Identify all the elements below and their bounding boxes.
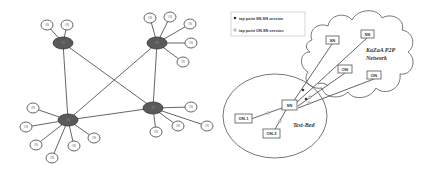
tap-point-sn-sn — [305, 98, 308, 101]
svg-text:ON: ON — [50, 156, 54, 160]
svg-text:ON: ON — [31, 106, 35, 110]
testbed-sn: SN — [282, 100, 297, 110]
ordinary-node: ON — [144, 13, 156, 23]
svg-text:SN: SN — [330, 38, 336, 43]
ordinary-node: ON — [185, 102, 197, 112]
ordinary-node: ON — [30, 140, 42, 150]
legend-item-on-sn: tap point ON-SN session — [239, 29, 284, 33]
ordinary-node: ON — [27, 103, 39, 113]
ordinary-node: ON — [88, 133, 100, 143]
right-panel-testbed: SN SN ON ON KaZaA P2P Network SN ON-1 ON… — [223, 11, 413, 158]
svg-text:ON: ON — [154, 130, 158, 134]
svg-text:ON: ON — [65, 23, 69, 27]
svg-text:ON: ON — [189, 105, 193, 109]
legend-hollow-dot-icon — [234, 29, 236, 31]
ordinary-node: ON — [201, 121, 213, 131]
sn-link — [68, 108, 153, 120]
supernode-bottom-right: SN — [143, 102, 163, 114]
svg-text:ON: ON — [181, 60, 185, 64]
svg-text:ON: ON — [148, 16, 152, 20]
svg-text:ON-2: ON-2 — [266, 131, 277, 136]
svg-text:ON: ON — [342, 67, 348, 72]
svg-text:ON: ON — [189, 41, 193, 45]
legend-item-sn-sn: tap point SN-SN session — [239, 17, 284, 21]
ordinary-node: ON — [41, 20, 53, 30]
sn-link — [153, 43, 157, 108]
supernode-top-left: SN — [53, 37, 73, 49]
svg-text:SN: SN — [365, 32, 371, 37]
figure-canvas: ON ON ON ON ON ON ON ON ON ON ON ON ON O… — [0, 0, 432, 173]
svg-text:SN: SN — [151, 106, 155, 110]
supernode-bottom-left: SN — [58, 114, 78, 126]
kazaa-cloud — [301, 11, 413, 98]
legend: tap point SN-SN session tap point ON-SN … — [231, 12, 305, 36]
tap-point-on-sn — [308, 102, 310, 104]
cloud-label-line2: Network — [365, 55, 387, 61]
ordinary-node: ON — [61, 20, 73, 30]
svg-text:ON: ON — [168, 15, 172, 19]
svg-text:SN: SN — [66, 118, 70, 122]
testbed-label: Test-Bed — [293, 122, 315, 128]
svg-text:ON: ON — [34, 143, 38, 147]
svg-text:ON: ON — [45, 23, 49, 27]
testbed-on-2: ON-2 — [263, 129, 280, 138]
svg-text:ON: ON — [371, 73, 377, 78]
ordinary-node: ON — [46, 153, 58, 163]
supernode-top-right: SN — [147, 37, 167, 49]
ordinary-node: ON — [184, 19, 196, 29]
testbed-on-1: ON-1 — [235, 114, 252, 123]
svg-text:ON: ON — [24, 125, 28, 129]
svg-text:ON: ON — [205, 124, 209, 128]
tap-point-sn-sn — [302, 89, 305, 92]
ordinary-node: ON — [150, 127, 162, 137]
left-panel-overlay-network: ON ON ON ON ON ON ON ON ON ON ON ON ON O… — [20, 12, 213, 163]
tap-point-on-sn — [309, 96, 311, 98]
sn-link — [63, 43, 153, 108]
supernodes: SN SN SN SN — [53, 37, 167, 126]
svg-text:ON: ON — [72, 144, 76, 148]
cloud-node: SN — [326, 36, 339, 44]
tap-point-on-sn — [279, 120, 281, 122]
legend-filled-dot-icon — [234, 17, 237, 20]
ordinary-node: ON — [177, 57, 189, 67]
cloud-node: SN — [361, 30, 374, 38]
cloud-label-line1: KaZaA P2P — [365, 47, 396, 53]
svg-text:SN: SN — [155, 41, 159, 45]
svg-text:ON: ON — [176, 124, 180, 128]
ordinary-node: ON — [20, 122, 32, 132]
svg-text:SN: SN — [61, 41, 65, 45]
ordinary-node: ON — [68, 141, 80, 151]
ordinary-nodes: ON ON ON ON ON ON ON ON ON ON ON ON ON O… — [20, 12, 213, 163]
ordinary-node: ON — [172, 121, 184, 131]
ordinary-node: ON — [164, 12, 176, 22]
ordinary-node: ON — [185, 38, 197, 48]
cloud-node: ON — [367, 71, 381, 79]
svg-text:ON-1: ON-1 — [238, 116, 249, 121]
svg-text:SN: SN — [287, 103, 293, 108]
ordinary-node-links — [26, 17, 207, 158]
cloud-node: ON — [338, 65, 352, 73]
tap-point-on-sn — [267, 112, 269, 114]
svg-text:ON: ON — [92, 136, 96, 140]
svg-text:ON: ON — [188, 22, 192, 26]
sn-link — [63, 43, 68, 120]
